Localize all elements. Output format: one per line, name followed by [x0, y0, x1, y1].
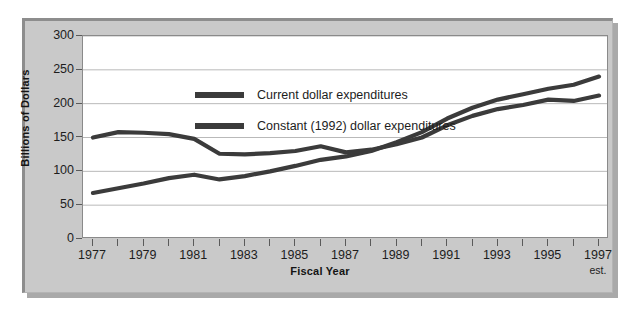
x-tick-mark	[244, 239, 245, 246]
x-tick-label: 1995	[519, 248, 575, 262]
x-tick-mark	[92, 239, 93, 246]
legend-label: Current dollar expenditures	[257, 88, 408, 102]
x-tick-label: 1979	[115, 248, 171, 262]
legend-swatch-current	[195, 92, 244, 98]
plot-area: Current dollar expenditures Constant (19…	[82, 35, 608, 238]
x-tick-mark	[320, 239, 321, 246]
chart-figure: 300 250 200 150 100 50 0 Billions of Dol…	[0, 0, 640, 315]
x-tick-mark	[522, 239, 523, 246]
legend: Current dollar expenditures Constant (19…	[195, 87, 456, 149]
y-tick-label: 100	[28, 164, 74, 176]
x-tick-mark	[345, 239, 346, 246]
x-tick-label: 1987	[317, 248, 373, 262]
x-tick-mark	[472, 239, 473, 246]
y-tick-label: 200	[28, 97, 74, 109]
legend-label: Constant (1992) dollar expenditures	[257, 119, 456, 133]
x-tick-label: 1981	[165, 248, 221, 262]
x-tick-mark	[269, 239, 270, 246]
x-tick-mark	[168, 239, 169, 246]
x-tick-label: 1989	[368, 248, 424, 262]
x-tick-label: 1991	[418, 248, 474, 262]
x-tick-mark	[497, 239, 498, 246]
x-tick-mark	[219, 239, 220, 246]
x-tick-label: 1977	[64, 248, 120, 262]
x-tick-mark	[294, 239, 295, 246]
legend-item: Current dollar expenditures	[195, 87, 456, 103]
x-axis-title: Fiscal Year	[0, 265, 640, 277]
x-tick-mark	[193, 239, 194, 246]
x-tick-mark	[573, 239, 574, 246]
x-tick-mark	[547, 239, 548, 246]
y-tick-mark	[76, 238, 82, 239]
x-tick-mark	[370, 239, 371, 246]
x-tick-mark	[396, 239, 397, 246]
x-tick-mark	[598, 239, 599, 246]
legend-item: Constant (1992) dollar expenditures	[195, 118, 456, 134]
y-tick-label: 250	[28, 63, 74, 75]
x-tick-label: 1997	[570, 248, 626, 262]
y-tick-label: 150	[28, 131, 74, 143]
x-tick-label: 1985	[266, 248, 322, 262]
y-tick-label: 300	[28, 29, 74, 41]
x-tick-label: 1983	[216, 248, 272, 262]
y-tick-label: 50	[28, 198, 74, 210]
x-tick-label: 1993	[469, 248, 525, 262]
y-tick-label: 0	[28, 232, 74, 244]
x-tick-mark	[143, 239, 144, 246]
x-tick-mark	[446, 239, 447, 246]
x-tick-mark	[421, 239, 422, 246]
x-tick-mark	[117, 239, 118, 246]
legend-swatch-constant	[195, 123, 244, 129]
y-axis-title: Billions of Dollars	[19, 63, 31, 173]
